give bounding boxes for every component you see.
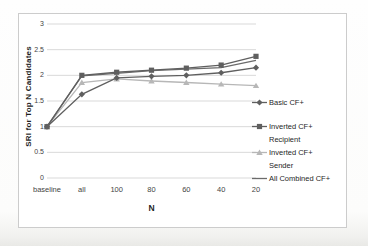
square-marker xyxy=(114,70,119,75)
legend-entry-all-combined-cf: All Combined CF+ xyxy=(252,172,346,185)
x-tick-label-40: 40 xyxy=(217,185,225,194)
legend-diamond-icon xyxy=(252,96,267,109)
y-tick-label-0: 0 xyxy=(19,174,44,182)
square-marker xyxy=(44,124,49,129)
square-marker xyxy=(219,62,224,67)
y-tick-label-1: 1 xyxy=(19,123,44,131)
chart-canvas xyxy=(47,24,256,178)
x-tick-label-all: all xyxy=(78,185,86,194)
x-tick-label-100: 100 xyxy=(110,185,123,194)
legend-label: Basic CF+ xyxy=(269,96,304,109)
screenshot-root: { "window": { "background": "#fcfcfb" },… xyxy=(0,0,368,246)
legend-label: Inverted CF+Sender xyxy=(269,146,313,172)
x-axis-labels: baselineall10080604020 xyxy=(47,185,256,195)
diamond-marker xyxy=(183,72,189,78)
y-tick-label-0.5: 0.5 xyxy=(19,148,44,156)
chart-legend: Basic CF+Inverted CF+RecipientInverted C… xyxy=(252,96,346,185)
legend-entry-basic-cf: Basic CF+ xyxy=(252,96,346,109)
x-tick-label-20: 20 xyxy=(252,185,260,194)
square-marker xyxy=(257,124,262,129)
square-marker xyxy=(184,66,189,71)
plot-area xyxy=(47,24,256,178)
square-marker xyxy=(79,73,84,78)
y-tick-label-3: 3 xyxy=(19,20,44,28)
x-tick-label-baseline: baseline xyxy=(33,185,61,194)
y-tick-label-2.5: 2.5 xyxy=(19,46,44,54)
series-line-inverted-cf-sender xyxy=(47,79,256,127)
legend-line-icon xyxy=(252,172,267,185)
x-tick-label-80: 80 xyxy=(147,185,155,194)
diamond-marker xyxy=(253,65,259,71)
legend-triangle-icon xyxy=(252,146,267,159)
legend-entry-inverted-cf-sender: Inverted CF+Sender xyxy=(252,146,346,172)
legend-entry-inverted-cf-recipient: Inverted CF+Recipient xyxy=(252,120,346,146)
y-tick-label-1.5: 1.5 xyxy=(19,97,44,105)
y-tick-label-2: 2 xyxy=(19,71,44,79)
x-tick-label-60: 60 xyxy=(182,185,190,194)
diamond-marker xyxy=(256,99,262,105)
diamond-marker xyxy=(148,73,154,79)
legend-label: Inverted CF+Recipient xyxy=(269,120,313,146)
x-axis-title: N xyxy=(47,203,256,213)
square-marker xyxy=(149,68,154,73)
legend-square-icon xyxy=(252,120,267,133)
chart-frame: SRI for Top N Candidates 00.511.522.53 b… xyxy=(18,13,347,228)
square-marker xyxy=(253,54,258,59)
legend-label: All Combined CF+ xyxy=(269,172,330,185)
